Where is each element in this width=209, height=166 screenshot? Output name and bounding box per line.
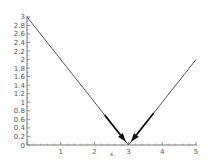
y-axis: 00.20.40.60.811.21.41.61.822.22.42.62.83: [14, 13, 30, 149]
y-tick-label: 2.2: [14, 48, 25, 56]
x-tick-label: 3: [126, 148, 130, 156]
x-tick-label: 2: [92, 148, 96, 156]
y-tick-label: 3: [21, 13, 25, 21]
y-tick-label: 0.6: [14, 116, 26, 124]
y-tick-label: 2: [21, 56, 25, 64]
x-tick-label: 5: [194, 148, 198, 156]
y-tick-label: 2.6: [14, 30, 26, 38]
right-limit-arrow-shaft: [136, 113, 153, 135]
y-tick-label: 0.2: [14, 133, 25, 141]
plot-series: [27, 17, 196, 145]
x-tick-label: 4: [160, 148, 165, 156]
function-plot: 00.20.40.60.811.21.41.61.822.22.42.62.83…: [0, 0, 209, 166]
left-limit-arrow-shaft: [105, 115, 121, 135]
y-tick-label: 2.8: [14, 22, 25, 30]
y-tick-label: 1.4: [14, 82, 26, 90]
x-axis-title: x: [110, 150, 114, 157]
y-tick-label: 0.8: [14, 107, 25, 115]
y-tick-label: 1.2: [14, 90, 25, 98]
y-tick-label: 0: [21, 142, 25, 150]
y-tick-label: 0.4: [14, 124, 26, 132]
limit-arrows: [105, 113, 154, 142]
y-tick-label: 1.6: [14, 73, 26, 81]
series-line: [27, 17, 196, 145]
y-tick-label: 1: [21, 99, 25, 107]
x-tick-label: 1: [59, 148, 63, 156]
y-tick-label: 2.4: [14, 39, 26, 47]
y-tick-label: 1.8: [14, 65, 25, 73]
